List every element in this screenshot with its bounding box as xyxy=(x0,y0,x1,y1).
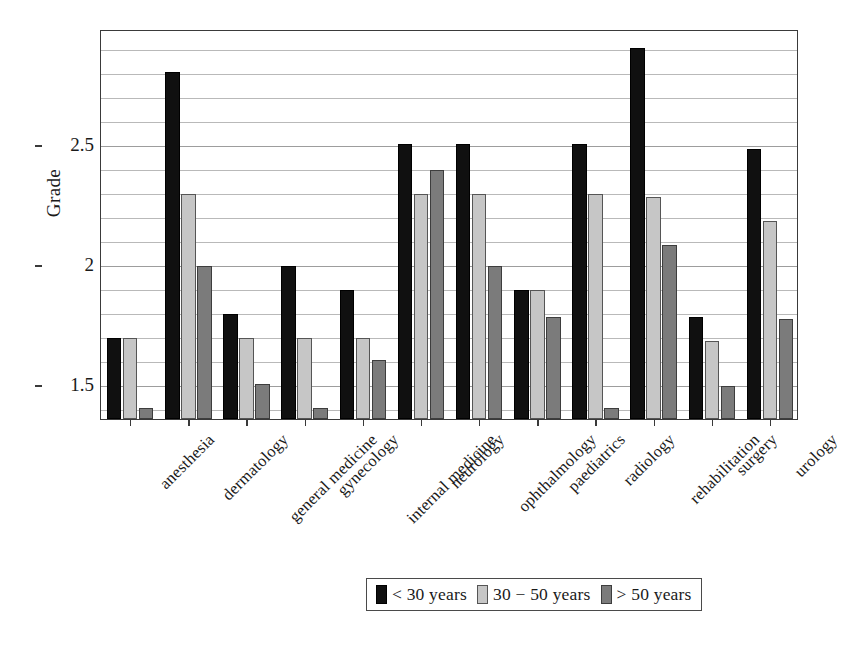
legend-label: 30 − 50 years xyxy=(493,584,591,605)
x-axis-label-dermatology: dermatology xyxy=(218,430,293,505)
y-tick-mark xyxy=(35,265,42,267)
gridline-minor xyxy=(101,242,797,243)
bar xyxy=(297,338,312,419)
bar xyxy=(430,170,445,419)
legend-label: > 50 years xyxy=(617,584,692,605)
legend-swatch-icon xyxy=(376,585,387,604)
bar xyxy=(123,338,138,419)
bar xyxy=(705,341,720,419)
bar xyxy=(588,194,603,419)
gridline-minor xyxy=(101,74,797,75)
bar xyxy=(181,194,196,419)
bar xyxy=(514,290,529,419)
bar xyxy=(472,194,487,419)
legend-entry: > 50 years xyxy=(601,584,692,605)
bar xyxy=(223,314,238,419)
x-axis-label-anesthesia: anesthesia xyxy=(156,430,220,494)
bar xyxy=(721,386,736,419)
bar xyxy=(604,408,619,419)
chart-legend: < 30 years30 − 50 years> 50 years xyxy=(366,578,702,611)
x-axis-label-urology: urology xyxy=(790,430,841,481)
bar xyxy=(107,338,122,419)
bar xyxy=(488,266,503,419)
gridline-major xyxy=(101,146,797,147)
bar xyxy=(414,194,429,419)
bar xyxy=(197,266,212,419)
bar xyxy=(372,360,387,419)
bar xyxy=(779,319,794,419)
y-tick-label: 2.5 xyxy=(46,135,94,154)
legend-entry: 30 − 50 years xyxy=(477,584,591,605)
legend-swatch-icon xyxy=(477,585,488,604)
gridline-minor xyxy=(101,122,797,123)
x-axis-category-labels: anesthesiadermatologygeneral medicinegyn… xyxy=(100,420,798,570)
bar xyxy=(165,72,180,419)
bar xyxy=(546,317,561,419)
gridline-minor xyxy=(101,98,797,99)
y-tick-label: 2 xyxy=(46,255,94,274)
bar xyxy=(662,245,677,419)
legend-label: < 30 years xyxy=(392,584,467,605)
y-tick-mark xyxy=(35,385,42,387)
bar xyxy=(139,408,154,419)
bar xyxy=(572,144,587,419)
bar xyxy=(281,266,296,419)
bar xyxy=(340,290,355,419)
bar xyxy=(646,197,661,419)
bar xyxy=(763,221,778,419)
bar xyxy=(239,338,254,419)
legend-swatch-icon xyxy=(601,585,612,604)
gridline-minor xyxy=(101,50,797,51)
bar xyxy=(689,317,704,419)
bar xyxy=(530,290,545,419)
x-axis-label-radiology: radiology xyxy=(619,430,679,490)
y-tick-label: 1.5 xyxy=(46,375,94,394)
bar xyxy=(356,338,371,419)
gridline-minor xyxy=(101,170,797,171)
bar xyxy=(747,149,762,419)
gridline-minor xyxy=(101,218,797,219)
plot-area xyxy=(100,30,798,420)
bar xyxy=(456,144,471,419)
bar xyxy=(255,384,270,419)
bar xyxy=(313,408,328,419)
legend-entry: < 30 years xyxy=(376,584,467,605)
bar xyxy=(630,48,645,419)
plot-inner xyxy=(101,31,797,419)
gridline-minor xyxy=(101,194,797,195)
y-tick-mark xyxy=(35,145,42,147)
bar xyxy=(398,144,413,419)
y-axis-ticks: 1.522.5 xyxy=(42,30,94,420)
